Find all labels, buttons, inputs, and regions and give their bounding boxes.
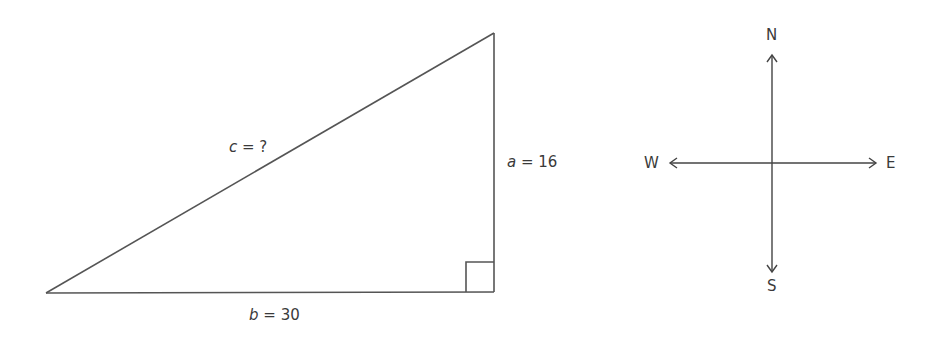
leg-a-var: a <box>507 153 516 171</box>
hypotenuse-c <box>46 33 494 293</box>
right-angle-marker <box>466 262 494 292</box>
right-triangle <box>46 33 494 293</box>
compass-rose <box>670 55 876 272</box>
leg-a-value: = 16 <box>516 153 557 171</box>
leg-b-horizontal <box>46 292 494 293</box>
leg-b-value: = 30 <box>259 306 300 324</box>
compass-south-label: S <box>767 279 777 294</box>
leg-a-label: a = 16 <box>507 155 557 170</box>
hypotenuse-var: c <box>229 138 237 156</box>
diagram-canvas <box>0 0 933 337</box>
leg-b-label: b = 30 <box>249 308 300 323</box>
hypotenuse-label: c = ? <box>229 140 267 155</box>
compass-west-label: W <box>644 156 659 171</box>
compass-east-label: E <box>886 156 895 171</box>
leg-b-var: b <box>249 306 259 324</box>
hypotenuse-value: = ? <box>237 138 267 156</box>
compass-north-label: N <box>766 28 777 43</box>
